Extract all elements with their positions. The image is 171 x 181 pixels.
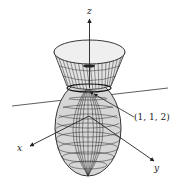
y-axis-label: y <box>153 163 160 173</box>
3d-surface-diagram: z x y (1, 1, 2) <box>0 0 171 181</box>
x-axis-label: x <box>17 143 22 153</box>
z-axis-label: z <box>86 6 92 16</box>
point-marker <box>91 92 94 95</box>
point-label: (1, 1, 2) <box>134 112 170 122</box>
